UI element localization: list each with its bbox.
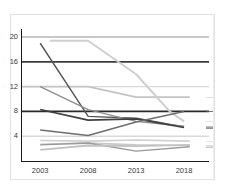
edge-tick-series-13-bottom-rising <box>206 145 213 146</box>
edge-tick-series-12-lowest-dip <box>206 147 213 148</box>
edge-tick-series-10-low-flat <box>206 141 213 142</box>
x-axis-line <box>21 161 209 162</box>
right-edge-rule <box>213 16 214 178</box>
edge-tick-series-9-dip-then-rise <box>206 111 213 112</box>
series-line-series-3-step-12-to-10 <box>21 87 190 98</box>
edge-tick-series-6-plateau-then-drop <box>206 121 213 122</box>
edge-tick-series-3-step-12-to-10 <box>206 97 213 98</box>
x-tick-label-2013: 2013 <box>121 166 151 175</box>
x-tick-label-2008: 2008 <box>73 166 103 175</box>
series-line-series-10-low-flat <box>40 140 190 141</box>
x-tick-label-2003: 2003 <box>25 166 55 175</box>
chart-figure: 48121620 2003200820132018 <box>0 0 232 190</box>
edge-tick-series-8-gentle-decline-dark <box>206 128 213 129</box>
y-tick-label-8: 8 <box>2 107 18 115</box>
y-tick-label-12: 12 <box>2 83 18 91</box>
x-tick-label-2018: 2018 <box>169 166 199 175</box>
y-tick-label-20: 20 <box>2 33 18 41</box>
y-axis-line <box>21 29 22 162</box>
plot-canvas <box>21 29 209 161</box>
y-tick-label-16: 16 <box>2 58 18 66</box>
series-line-series-6-plateau-then-drop <box>50 41 184 122</box>
plot-area <box>21 29 209 161</box>
y-tick-label-4: 4 <box>2 132 18 140</box>
